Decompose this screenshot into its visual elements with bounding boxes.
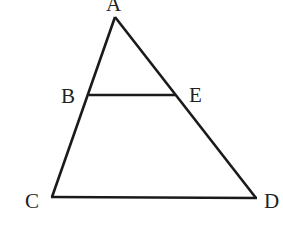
segment-cd [51, 197, 257, 198]
label-b: B [61, 84, 75, 108]
triangle-diagram: A B E C D [0, 0, 283, 228]
segment-ad [115, 17, 256, 198]
label-d: D [264, 189, 279, 213]
label-a: A [106, 0, 122, 16]
label-e: E [189, 83, 202, 107]
label-c: C [25, 189, 39, 213]
